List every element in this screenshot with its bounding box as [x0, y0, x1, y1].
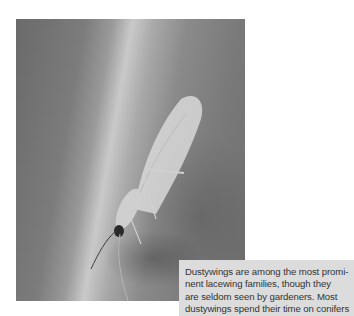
caption-line: are seldom seen by gardeners. Most [185, 291, 350, 303]
caption-line: nent lacewing families, though they [185, 278, 350, 290]
dustywing-photo [16, 19, 245, 301]
insect-illustration [16, 19, 245, 301]
caption-line: Dustywings are among the most promi- [185, 266, 350, 278]
caption-line: dustywings spend their time on conifers [185, 303, 350, 315]
figure-caption: Dustywings are among the most promi- nen… [179, 260, 354, 316]
